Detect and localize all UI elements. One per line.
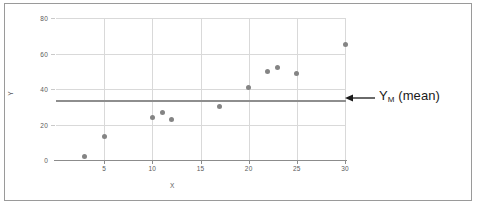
mean-annotation: YM (mean) — [345, 88, 440, 103]
x-tick-mark-5 — [104, 160, 105, 164]
y-axis-title: Y — [7, 91, 14, 95]
y-tick-mark-40 — [51, 89, 55, 90]
x-tick-label-10: 10 — [137, 165, 167, 172]
data-point — [160, 110, 165, 115]
x-tick-mark-30 — [345, 160, 346, 164]
y-tick-label-0: 0 — [28, 157, 48, 164]
data-point — [82, 154, 87, 159]
x-axis-title: X — [170, 182, 174, 189]
mean-suffix: (mean) — [395, 88, 441, 103]
data-point — [169, 117, 174, 122]
y-tick-label-20: 20 — [28, 122, 48, 129]
gridline-vertical-25 — [297, 18, 298, 160]
data-point — [265, 69, 270, 74]
y-tick-label-80: 80 — [28, 15, 48, 22]
left-arrow-icon — [345, 90, 375, 102]
data-point — [275, 65, 280, 70]
x-tick-label-25: 25 — [282, 165, 312, 172]
y-tick-mark-80 — [51, 18, 55, 19]
y-tick-label-60: 60 — [28, 51, 48, 58]
gridline-vertical-10 — [152, 18, 153, 160]
chart-screenshot: 80 60 40 20 0 5 10 15 20 25 30 Y X YM (m… — [0, 0, 478, 208]
data-point — [102, 134, 107, 139]
x-tick-label-20: 20 — [234, 165, 264, 172]
x-tick-mark-20 — [249, 160, 250, 164]
mean-reference-line — [56, 100, 346, 102]
x-tick-mark-10 — [152, 160, 153, 164]
mean-annotation-label: YM (mean) — [379, 88, 440, 103]
y-tick-mark-20 — [51, 125, 55, 126]
data-point — [246, 85, 251, 90]
plot-area — [56, 18, 345, 160]
mean-symbol: Y — [379, 88, 388, 103]
x-tick-mark-25 — [297, 160, 298, 164]
y-tick-mark-60 — [51, 54, 55, 55]
x-tick-label-30: 30 — [330, 165, 360, 172]
data-point — [217, 104, 222, 109]
x-tick-label-5: 5 — [89, 165, 119, 172]
data-point — [294, 71, 299, 76]
x-tick-mark-15 — [201, 160, 202, 164]
data-point — [150, 115, 155, 120]
gridline-vertical-15 — [201, 18, 202, 160]
data-point — [343, 42, 348, 47]
mean-subscript: M — [388, 95, 395, 104]
y-tick-label-40: 40 — [28, 86, 48, 93]
x-tick-label-15: 15 — [186, 165, 216, 172]
